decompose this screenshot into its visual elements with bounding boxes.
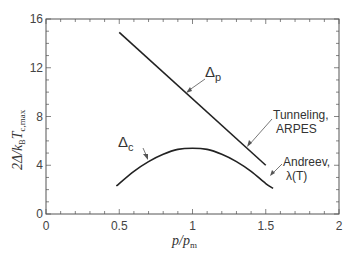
y-axis-title: 2Δ/kBTc,max xyxy=(10,109,27,170)
x-tick-label: 0.5 xyxy=(111,219,128,233)
y-tick-label: 4 xyxy=(36,158,43,172)
y-tick-label: 8 xyxy=(36,110,43,124)
svg-text:Δc: Δc xyxy=(118,133,134,153)
svg-text:Tunneling,: Tunneling, xyxy=(273,108,329,122)
y-tick-labels: 0481216 xyxy=(30,12,44,221)
x-tick-label: 1 xyxy=(189,219,196,233)
annotation-tunneling: Tunneling, ARPES xyxy=(247,108,329,147)
y-tick-label: 0 xyxy=(36,207,43,221)
svg-text:ARPES: ARPES xyxy=(276,122,317,136)
x-tick-labels: 00.511.52 xyxy=(43,219,343,233)
chart: 00.511.52 0481216 Δp Δc Tunneling, ARPES… xyxy=(0,0,358,257)
annotation-delta-p: Δp xyxy=(186,63,221,93)
x-tick-label: 1.5 xyxy=(257,219,274,233)
annotation-andreev: Andreev, λ(T) xyxy=(270,155,330,183)
svg-text:λ(T): λ(T) xyxy=(286,169,307,183)
svg-text:Δp: Δp xyxy=(205,63,221,83)
svg-text:Andreev,: Andreev, xyxy=(283,155,330,169)
series-delta-c-curve xyxy=(116,148,273,188)
series-delta-p-line xyxy=(119,32,266,165)
x-tick-label: 2 xyxy=(336,219,343,233)
annotation-delta-c: Δc xyxy=(118,133,148,160)
x-tick-label: 0 xyxy=(43,219,50,233)
series-group xyxy=(116,32,273,188)
y-tick-label: 16 xyxy=(30,12,44,26)
x-axis-title: p/pm xyxy=(171,233,197,250)
y-tick-label: 12 xyxy=(30,61,44,75)
